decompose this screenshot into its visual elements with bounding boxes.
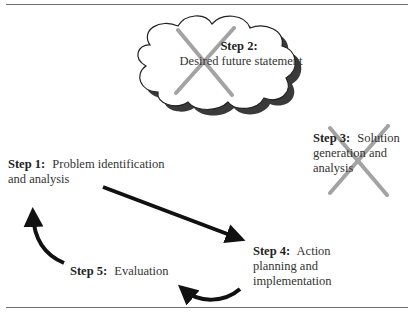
step4-line1: Action (297, 244, 331, 258)
arrow-step4-to-step5-icon (184, 289, 240, 300)
step3-line3: analysis (313, 161, 413, 176)
step4-label: Step 4: Action planning and implementati… (253, 244, 373, 289)
step2-text: Desired future statement (171, 54, 311, 69)
step3-line1: Solution (357, 131, 399, 145)
step1-label: Step 1: Problem identification and analy… (8, 157, 208, 187)
step1-line2: and analysis (8, 172, 208, 187)
step4-line2: planning and (253, 259, 373, 274)
step2-label: Step 2: Desired future statement (171, 39, 311, 69)
step3-line2: generation and (313, 146, 413, 161)
step3-prefix: Step 3: (313, 131, 350, 145)
step4-line3: implementation (253, 274, 373, 289)
step3-label: Step 3: Solution generation and analysis (313, 131, 413, 176)
step1-prefix: Step 1: (8, 157, 45, 171)
step5-text: Evaluation (114, 264, 168, 278)
step1-line1: Problem identification (52, 157, 164, 171)
step5-prefix: Step 5: (70, 264, 107, 278)
step2-prefix: Step 2: (220, 39, 257, 53)
arrow-step5-to-step1-icon (33, 215, 64, 263)
step4-prefix: Step 4: (253, 244, 290, 258)
arrow-step1-to-step4-icon (103, 187, 238, 238)
step5-label: Step 5: Evaluation (70, 264, 230, 279)
